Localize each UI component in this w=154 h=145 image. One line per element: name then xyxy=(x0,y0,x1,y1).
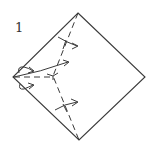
fold-arrow-bottom xyxy=(55,99,78,112)
valley-fold-line xyxy=(53,13,79,140)
tuck-arrow-lower xyxy=(20,83,35,89)
origami-diagram xyxy=(0,0,154,145)
square-paper xyxy=(13,13,145,140)
fold-arrow-top xyxy=(58,37,78,49)
